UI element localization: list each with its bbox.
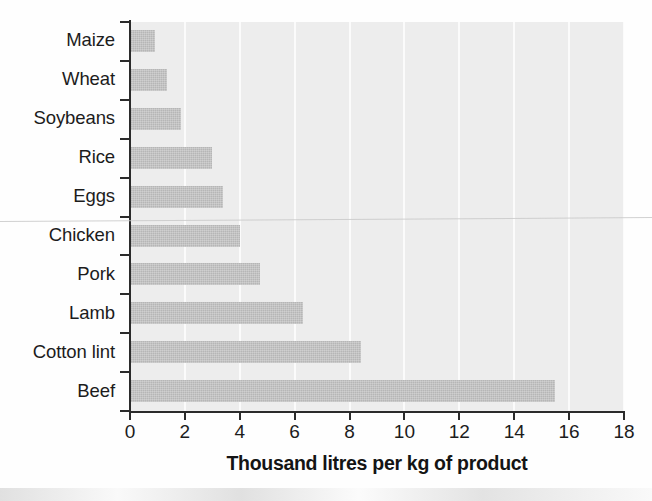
x-tick-label-4: 4 (210, 421, 270, 443)
bar-band (130, 139, 624, 178)
bar-band (130, 178, 624, 217)
bar-rice (130, 147, 212, 169)
x-axis-title: Thousand litres per kg of product (130, 452, 624, 475)
x-tick-8 (349, 411, 351, 420)
y-tick (120, 177, 130, 179)
y-tick-label-eggs: Eggs (0, 186, 115, 206)
y-tick-label-pork: Pork (0, 264, 115, 284)
y-tick (120, 21, 130, 23)
bar-eggs (130, 186, 223, 208)
x-tick-label-16: 16 (539, 421, 599, 443)
y-tick (120, 99, 130, 101)
y-tick-label-rice: Rice (0, 147, 115, 167)
scan-artifact-bottom-text (0, 488, 652, 501)
x-tick-label-12: 12 (429, 421, 489, 443)
y-tick-label-cotton-lint: Cotton lint (0, 342, 115, 362)
x-tick-0 (129, 411, 131, 420)
bar-band (130, 333, 624, 372)
x-tick-label-6: 6 (265, 421, 325, 443)
y-tick (120, 371, 130, 373)
bar-band (130, 100, 624, 139)
bar-wheat (130, 69, 167, 91)
y-tick-label-chicken: Chicken (0, 225, 115, 245)
y-tick (120, 254, 130, 256)
bar-band (130, 255, 624, 294)
x-tick-label-2: 2 (155, 421, 215, 443)
x-tick-10 (403, 411, 405, 420)
bar-beef (130, 380, 555, 402)
y-tick-label-lamb: Lamb (0, 303, 115, 323)
x-tick-label-8: 8 (320, 421, 380, 443)
x-tick-label-10: 10 (374, 421, 434, 443)
bar-band (130, 22, 624, 61)
bar-band (130, 61, 624, 100)
bar-lamb (130, 302, 303, 324)
x-tick-6 (294, 411, 296, 420)
x-tick-label-14: 14 (484, 421, 544, 443)
y-tick-label-beef: Beef (0, 381, 115, 401)
bar-chart-figure: MaizeWheatSoybeansRiceEggsChickenPorkLam… (0, 0, 652, 501)
x-tick-14 (513, 411, 515, 420)
y-tick (120, 216, 130, 218)
x-tick-4 (239, 411, 241, 420)
bar-cotton-lint (130, 341, 361, 363)
y-tick (120, 60, 130, 62)
x-tick-label-18: 18 (594, 421, 652, 443)
bar-soybeans (130, 108, 181, 130)
bar-band (130, 217, 624, 256)
x-tick-2 (184, 411, 186, 420)
y-tick (120, 293, 130, 295)
x-tick-label-0: 0 (100, 421, 160, 443)
x-axis-line (129, 411, 625, 413)
y-tick (120, 332, 130, 334)
bar-maize (130, 30, 155, 52)
y-tick (120, 138, 130, 140)
x-tick-12 (458, 411, 460, 420)
bar-band (130, 294, 624, 333)
y-tick-label-maize: Maize (0, 30, 115, 50)
y-tick-label-soybeans: Soybeans (0, 108, 115, 128)
x-tick-16 (568, 411, 570, 420)
x-tick-18 (623, 411, 625, 420)
bar-band (130, 372, 624, 411)
bar-chicken (130, 225, 240, 247)
plot-area (130, 22, 624, 411)
bar-pork (130, 263, 260, 285)
y-tick-label-wheat: Wheat (0, 69, 115, 89)
